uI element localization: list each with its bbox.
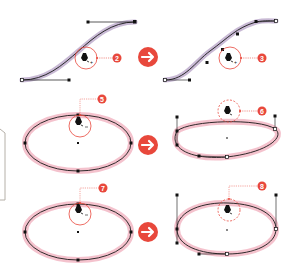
center-point <box>226 137 228 139</box>
step-badge-5: 5 <box>98 95 107 104</box>
svg-text:7: 7 <box>101 185 105 192</box>
anchor-point[interactable] <box>176 130 179 133</box>
handle-point[interactable] <box>176 144 179 147</box>
handle-point[interactable] <box>274 115 277 118</box>
anchor-point[interactable] <box>164 79 167 82</box>
anchor-point[interactable] <box>21 79 24 82</box>
pen-icon <box>224 205 232 214</box>
ellipse-before-row-3: 7 <box>24 184 133 262</box>
step-badge-2: 2 <box>113 54 122 63</box>
anchor-point[interactable] <box>275 228 278 231</box>
ellipse-before-row-2: 5 <box>24 95 133 173</box>
step-badge-7: 7 <box>99 184 108 193</box>
anchor-point[interactable] <box>130 142 133 145</box>
handle-point[interactable] <box>87 21 90 24</box>
svg-text:+: + <box>234 59 237 65</box>
handle-point[interactable] <box>176 116 179 119</box>
svg-text:+: + <box>90 59 93 65</box>
pen-icon <box>224 106 232 115</box>
anchor-point[interactable] <box>226 253 229 256</box>
callout-line <box>80 188 99 203</box>
pen-plus-icon: + <box>81 53 93 65</box>
anchor-point[interactable] <box>176 228 179 231</box>
svg-text:5: 5 <box>100 96 104 103</box>
handle-point[interactable] <box>176 242 179 245</box>
svg-text:8: 8 <box>260 183 264 190</box>
ellipse-after-row-2: 6 <box>175 100 278 159</box>
pen-plus-icon: + <box>225 53 237 65</box>
step-badge-6: 6 <box>258 107 267 116</box>
anchor-point[interactable] <box>24 231 27 234</box>
anchor-point[interactable] <box>226 156 229 159</box>
handle-point[interactable] <box>176 194 179 197</box>
handle-point[interactable] <box>188 79 191 82</box>
step-badge-8: 8 <box>258 182 267 191</box>
ellipse-after-row-3: 8 <box>176 182 278 256</box>
handle-point[interactable] <box>275 194 278 197</box>
handle-point[interactable] <box>68 79 71 82</box>
diagram-canvas: + 2 + 3 <box>0 0 293 270</box>
s-curve-before: + 2 <box>21 20 137 82</box>
arrow-row-2-icon <box>138 135 158 155</box>
anchor-point[interactable] <box>77 259 80 262</box>
pen-minus-icon <box>75 117 88 127</box>
step-badge-3: 3 <box>258 54 267 63</box>
anchor-point[interactable] <box>275 20 278 23</box>
s-curve-after: + 3 <box>164 20 278 82</box>
anchor-point[interactable] <box>133 20 137 24</box>
anchor-point[interactable] <box>236 33 239 36</box>
callout-line <box>229 186 258 199</box>
center-point <box>77 142 79 144</box>
anchor-point[interactable] <box>24 142 27 145</box>
anchor-point[interactable] <box>130 231 133 234</box>
anchor-point[interactable] <box>206 61 209 64</box>
anchor-point[interactable] <box>77 170 80 173</box>
anchor-point[interactable] <box>274 128 277 131</box>
center-point <box>226 229 228 231</box>
center-point <box>77 231 79 233</box>
svg-text:6: 6 <box>260 108 264 115</box>
arrow-row-3-icon <box>138 222 158 242</box>
svg-text:2: 2 <box>115 55 119 62</box>
handle-point[interactable] <box>198 253 201 256</box>
handle-point[interactable] <box>255 20 258 23</box>
partial-frame <box>0 129 5 200</box>
handle-point[interactable] <box>198 155 201 158</box>
svg-text:3: 3 <box>260 55 264 62</box>
arrow-row-1-icon <box>138 47 158 67</box>
